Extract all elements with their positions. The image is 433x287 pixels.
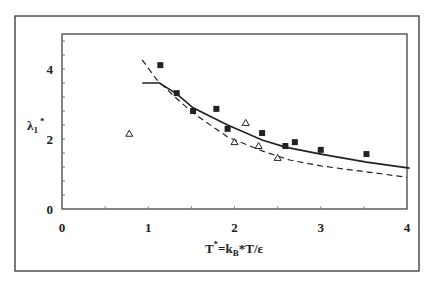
x-tick-label: 2	[231, 220, 238, 235]
solid-curve	[142, 83, 409, 168]
square-marker	[190, 108, 196, 114]
triangle-marker	[126, 130, 133, 136]
x-tick-label: 1	[145, 220, 152, 235]
y-axis-title: λ1*	[27, 116, 45, 135]
square-marker	[157, 62, 163, 68]
y-tick-label: 4	[47, 62, 54, 77]
y-tick-label: 0	[47, 202, 54, 217]
x-axis-title: T*=kB*T/ε	[205, 239, 264, 258]
x-axis-tick-labels: 01234	[59, 220, 411, 235]
chart-figure: 024 01234 λ1* T*=kB*T/ε	[0, 0, 433, 287]
x-tick-label: 3	[318, 220, 325, 235]
y-tick-label: 2	[47, 132, 54, 147]
square-marker	[318, 147, 324, 153]
square-marker	[282, 143, 288, 149]
square-marker	[259, 130, 265, 136]
plot-area	[62, 34, 407, 209]
square-marker	[363, 151, 369, 157]
triangle-marker	[242, 119, 249, 125]
data-markers	[126, 62, 370, 160]
square-marker	[292, 139, 298, 145]
x-tick-label: 4	[404, 220, 411, 235]
square-marker	[174, 90, 180, 96]
triangle-marker	[231, 139, 238, 145]
outer-frame	[15, 16, 419, 271]
triangle-marker	[255, 143, 262, 149]
square-marker	[213, 106, 219, 112]
x-tick-label: 0	[59, 220, 66, 235]
square-marker	[225, 126, 231, 132]
y-axis-tick-labels: 024	[47, 62, 54, 217]
